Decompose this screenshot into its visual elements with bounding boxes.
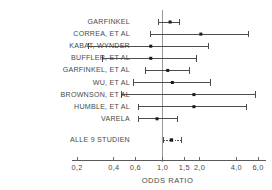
study-label: BUFFLER, ET AL	[0, 54, 130, 62]
x-axis-tick-label: 0,2	[71, 163, 82, 172]
x-axis-tick-label: 6,0	[252, 163, 263, 172]
point-estimate-marker	[192, 105, 195, 108]
point-estimate-marker	[149, 57, 152, 60]
study-label: WU, ET AL	[0, 79, 130, 87]
study-row	[145, 67, 189, 73]
study-label: BROWNSON, ET AL	[0, 91, 130, 99]
summary-label: ALLE 9 STUDIEN	[0, 136, 130, 144]
x-axis-tick-label: 0,6	[130, 163, 141, 172]
study-row	[138, 104, 246, 110]
x-axis-tick-label: 1,0	[157, 163, 168, 172]
study-label: GARFINKEL	[0, 18, 130, 26]
study-label: KABAT, WYNDER	[0, 42, 130, 50]
point-estimate-marker	[170, 138, 173, 141]
study-row	[121, 91, 255, 97]
study-label: CORREA, ET AL	[0, 30, 130, 38]
study-row	[151, 31, 249, 37]
point-estimate-marker	[149, 45, 152, 48]
x-axis-tick-label: 1,5	[179, 163, 190, 172]
x-axis-tick-label: 0,4	[108, 163, 119, 172]
x-axis-tick-label: 4,0	[231, 163, 242, 172]
study-label: GARFINKEL, ET AL	[0, 66, 130, 74]
study-row	[134, 79, 211, 85]
point-estimate-marker	[156, 117, 159, 120]
point-estimate-marker	[192, 93, 195, 96]
study-label: VARELA	[0, 115, 130, 123]
point-estimate-marker	[169, 21, 172, 24]
x-axis-title: ODDS RATIO	[142, 176, 194, 185]
point-estimate-marker	[171, 81, 174, 84]
forest-plot: GARFINKELCORREA, ET ALKABAT, WYNDERBUFFL…	[0, 0, 272, 190]
point-estimate-marker	[166, 69, 169, 72]
summary-row	[164, 137, 182, 143]
point-estimate-marker	[199, 33, 202, 36]
x-axis-tick-label: 2,0	[194, 163, 205, 172]
study-row	[159, 19, 180, 25]
study-label: HUMBLE, ET AL	[0, 103, 130, 111]
study-row	[139, 116, 178, 122]
